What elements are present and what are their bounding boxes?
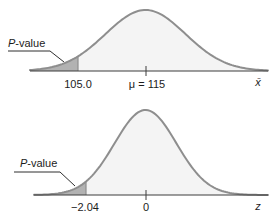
critical-value-label-xbar: 105.0 [56,78,100,90]
z-distribution-plot [14,110,268,200]
p-value-annotation-bottom: P-value [20,157,57,169]
p-value-rest: -value [15,37,45,49]
p-value-figure: P-value 105.0 μ = 115 x̄ P-value −2.04 0… [0,0,276,218]
mean-label-xbar: μ = 115 [119,78,175,90]
distribution-plots-canvas [0,0,276,218]
mean-label-z: 0 [136,201,156,213]
p-value-leader-line [8,51,64,62]
axis-label-xbar: x̄ [249,76,267,88]
p-value-leader-line [14,172,75,186]
xbar-distribution-plot [8,10,268,76]
p-value-rest: -value [27,157,57,169]
axis-label-z: z [250,200,266,212]
p-value-annotation-top: P-value [8,37,45,49]
critical-value-label-z: −2.04 [63,201,107,213]
area-under-curve [34,110,268,195]
